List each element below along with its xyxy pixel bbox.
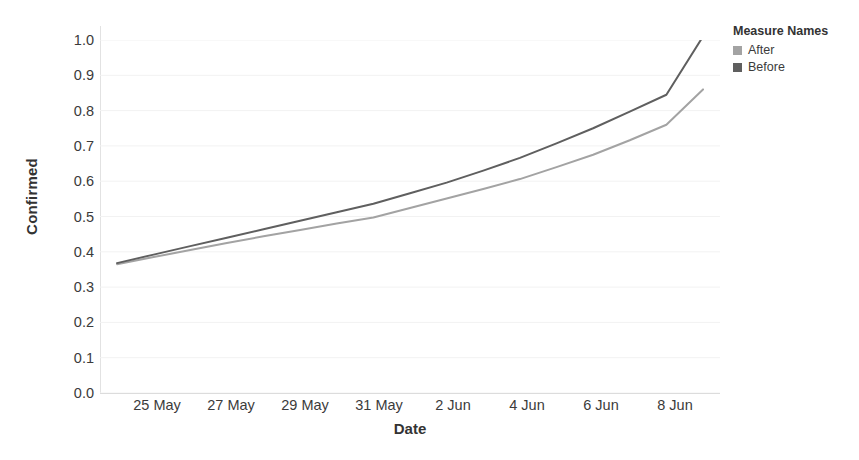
data-series-layer [100, 40, 720, 393]
y-tick-label: 0.9 [44, 68, 94, 83]
x-tick-label: 8 Jun [657, 397, 692, 414]
y-axis-tick-labels: 0.00.10.20.30.40.50.60.70.80.91.0 [44, 0, 94, 460]
x-tick-label: 6 Jun [583, 397, 618, 414]
legend: Measure Names AfterBefore [733, 24, 853, 77]
line-chart: Confirmed 0.00.10.20.30.40.50.60.70.80.9… [0, 0, 859, 460]
y-tick-label: 0.0 [44, 386, 94, 401]
y-tick-label: 0.8 [44, 103, 94, 118]
legend-title: Measure Names [733, 24, 853, 38]
legend-item-label: After [748, 43, 774, 57]
y-axis-title: Confirmed [18, 0, 44, 393]
legend-item[interactable]: After [733, 43, 853, 57]
y-tick-label: 0.6 [44, 174, 94, 189]
x-tick-label: 25 May [133, 397, 181, 414]
y-axis-title-label: Confirmed [23, 158, 40, 235]
x-tick-label: 29 May [281, 397, 329, 414]
legend-item-label: Before [748, 60, 785, 74]
y-tick-label: 1.0 [44, 33, 94, 48]
y-tick-label: 0.4 [44, 245, 94, 260]
legend-swatch-icon [733, 46, 742, 55]
x-axis-title: Date [100, 420, 720, 437]
y-tick-label: 0.5 [44, 209, 94, 224]
x-tick-label: 31 May [355, 397, 403, 414]
plot-area [100, 40, 720, 393]
legend-items: AfterBefore [733, 43, 853, 74]
y-tick-label: 0.1 [44, 350, 94, 365]
x-axis-line [100, 393, 720, 394]
x-axis-tick-labels: 25 May27 May29 May31 May2 Jun4 Jun6 Jun8… [100, 397, 720, 419]
y-tick-label: 0.7 [44, 139, 94, 154]
series-line-after[interactable] [117, 89, 703, 264]
x-tick-label: 27 May [207, 397, 255, 414]
y-tick-label: 0.3 [44, 280, 94, 295]
legend-item[interactable]: Before [733, 60, 853, 74]
legend-swatch-icon [733, 63, 742, 72]
x-tick-label: 4 Jun [509, 397, 544, 414]
y-tick-label: 0.2 [44, 315, 94, 330]
series-line-before[interactable] [117, 40, 703, 263]
x-tick-label: 2 Jun [435, 397, 470, 414]
